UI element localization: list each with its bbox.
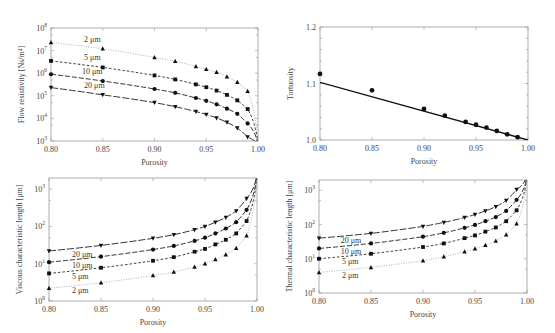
y-axis-label: Viscous characteristic length [μm] [15,184,24,294]
data-point [234,232,238,236]
x-tick-label: 1.00 [250,305,264,314]
data-point [151,247,155,251]
series-label: 10 μm [341,247,362,256]
x-axis-label: Porosity [410,310,437,319]
data-point [317,246,321,250]
data-point [172,269,176,273]
data-point [514,221,518,225]
data-point [153,73,157,77]
y-axis-label: Flow resistivity [Ns/m⁴] [17,45,26,123]
data-point [235,80,239,84]
data-point [246,121,250,125]
data-point [442,254,446,258]
data-point [463,120,468,125]
data-point [244,233,248,237]
data-point [203,261,207,265]
figure-canvas: 0.800.850.900.951.00103104105106107108Po… [0,0,555,333]
chart-tortuosity: 0.800.850.900.951.001.01.11.2PorosityTor… [286,23,535,166]
data-point [473,234,477,238]
data-point [494,129,499,134]
data-point [194,82,198,86]
data-point [224,216,228,220]
data-point [494,239,498,243]
data-point [505,132,510,137]
data-point [245,219,249,223]
data-point [473,223,477,227]
data-point [204,85,208,89]
data-point [234,220,238,224]
data-point [515,135,520,140]
data-point [47,249,51,253]
y-axis-label: Thermal characteristic length [μm] [285,180,294,292]
data-point [192,264,196,268]
series-label: 2 μm [84,35,101,44]
data-point [172,233,176,237]
data-point [204,67,208,71]
data-point [504,199,508,203]
data-point [204,99,208,103]
data-point [318,71,323,76]
y-tick-label: 105 [36,90,47,101]
data-point [193,250,197,254]
data-point [442,242,446,246]
data-point [369,265,373,269]
series-label: 2 μm [72,286,89,295]
data-point [172,244,176,248]
x-tick-label: 0.80 [42,305,56,314]
data-point [463,236,467,240]
data-point [494,205,498,209]
series-label: 20 μm [341,236,362,245]
data-point [246,107,250,111]
x-tick-label: 1.00 [520,297,534,306]
data-point [225,107,229,111]
series-label: 2 μm [342,271,359,280]
x-tick-label: 0.95 [468,297,482,306]
data-point [245,135,249,139]
data-point [99,266,103,270]
x-tick-label: 0.80 [313,144,327,153]
data-point [152,101,156,105]
chart-flow-resistivity: 0.800.850.900.951.00103104105106107108Po… [17,22,265,167]
data-point [494,226,498,230]
x-tick-label: 1.00 [251,145,265,154]
y-tick-label: 103 [304,184,315,195]
data-point [235,98,239,102]
data-point [224,252,228,256]
x-tick-label: 1.00 [521,144,535,153]
data-point [474,122,479,127]
data-point [49,72,53,76]
data-point [99,280,103,284]
data-point [483,219,487,223]
x-axis-label: Porosity [411,157,438,166]
data-point [235,112,239,116]
data-point [215,89,219,93]
data-point [193,239,197,243]
y-tick-label: 1.1 [306,80,316,89]
data-point [172,255,176,259]
data-point [152,87,156,91]
x-axis-label: Porosity [141,158,168,167]
data-point [215,102,219,106]
y-tick-label: 102 [304,219,315,230]
data-point [504,232,508,236]
data-point [214,243,218,247]
x-axis-label: Porosity [140,318,167,327]
x-tick-label: 0.90 [417,144,431,153]
data-point [47,260,51,264]
data-point [369,241,373,245]
x-tick-label: 0.95 [469,144,483,153]
data-point [504,219,508,223]
x-tick-label: 0.80 [44,145,58,154]
series-label: 20 μm [72,250,93,259]
data-point [151,259,155,263]
y-tick-label: 104 [36,112,47,123]
x-tick-label: 0.90 [148,145,162,154]
data-point [442,221,446,225]
data-point [484,125,489,130]
series-label: 20 μm [84,81,105,90]
series-label: 5 μm [84,53,101,62]
plot-frame [320,27,528,140]
x-tick-label: 0.85 [94,305,108,314]
y-tick-label: 1.2 [306,23,316,32]
y-tick-label: 107 [36,45,47,56]
